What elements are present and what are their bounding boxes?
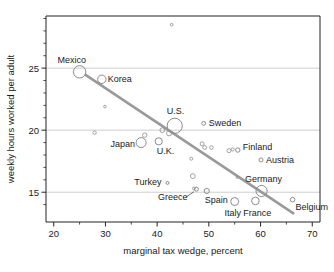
- label-belgium: Belgium: [296, 202, 329, 212]
- ytick-label-25: 25: [28, 63, 39, 74]
- label-france: France: [243, 208, 271, 218]
- x-axis-title: marginal tax wedge, percent: [123, 245, 243, 256]
- label-germany: Germany: [245, 174, 283, 184]
- xtick-label-40: 40: [152, 228, 163, 239]
- xtick-label-60: 60: [255, 228, 266, 239]
- xtick-label-20: 20: [48, 228, 59, 239]
- chart-figure: MexicoKoreaU.S.SwedenJapanU.K.FinlandAus…: [0, 0, 334, 272]
- label-japan: Japan: [111, 139, 136, 149]
- ytick-label-20: 20: [28, 125, 39, 136]
- label-spain: Spain: [205, 195, 228, 205]
- label-italy: Italy: [224, 208, 241, 218]
- label-austria: Austria: [266, 155, 294, 165]
- scatter-plot: MexicoKoreaU.S.SwedenJapanU.K.FinlandAus…: [0, 0, 334, 272]
- xtick-label-50: 50: [204, 228, 215, 239]
- label-us: U.S.: [167, 106, 185, 116]
- xtick-label-30: 30: [100, 228, 111, 239]
- xtick-label-70: 70: [307, 228, 318, 239]
- label-korea: Korea: [108, 74, 132, 84]
- label-finland: Finland: [243, 142, 273, 152]
- label-greece: Greece: [158, 192, 188, 202]
- y-axis-title: weekly hours worked per adult: [5, 54, 16, 184]
- label-turkey: Turkey: [134, 177, 162, 187]
- label-mexico: Mexico: [58, 55, 87, 65]
- label-sweden: Sweden: [209, 118, 242, 128]
- label-uk: U.K.: [157, 146, 175, 156]
- ytick-label-15: 15: [28, 187, 39, 198]
